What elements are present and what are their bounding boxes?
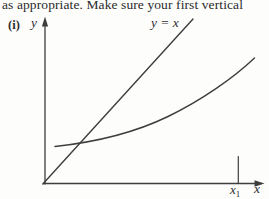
y-axis-arrowhead-icon: [42, 17, 48, 27]
identity-line: [43, 19, 193, 184]
x1-tick-label: x1: [230, 183, 240, 199]
x1-label-subscript: 1: [236, 189, 241, 199]
y-axis-label: y: [31, 16, 37, 30]
x-axis-label: x: [254, 182, 260, 196]
function-curve: [55, 58, 255, 147]
graph-canvas: [0, 0, 269, 199]
line-equation-label: y = x: [151, 16, 179, 30]
book-page-fragment: as appropriate. Make sure your first ver…: [0, 0, 269, 199]
